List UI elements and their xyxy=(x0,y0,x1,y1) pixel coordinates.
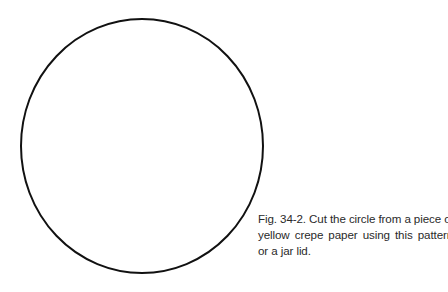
caption-line-1: Fig. 34-2. Cut the circle from a piece o… xyxy=(258,211,448,227)
circle-pattern-outline xyxy=(21,19,263,273)
caption-line-2: yellow crepe paper using this pattern xyxy=(258,227,448,243)
caption-line-3: or a jar lid. xyxy=(258,243,448,259)
figure-caption: Fig. 34-2. Cut the circle from a piece o… xyxy=(258,211,448,259)
